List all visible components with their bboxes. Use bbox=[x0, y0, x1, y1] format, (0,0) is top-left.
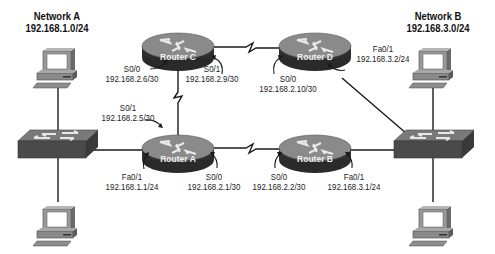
pc-a1-icon bbox=[33, 48, 77, 88]
ip: 192.168.2.5/30 bbox=[100, 113, 156, 123]
router-b-label: Router B bbox=[289, 154, 341, 164]
port: S0/0 bbox=[256, 74, 319, 84]
port: S0/0 bbox=[251, 172, 307, 182]
ip: 192.168.3.1/24 bbox=[326, 182, 382, 192]
pc-b2-icon bbox=[409, 206, 453, 246]
network-b-label: Network B 192.168.3.0/24 bbox=[393, 10, 483, 34]
router-c-label: Router C bbox=[152, 52, 204, 62]
port: S0/0 bbox=[186, 172, 242, 182]
pc-b1-icon bbox=[409, 48, 453, 88]
router-a-label: Router A bbox=[152, 154, 204, 164]
router-c-s01-label: S0/1 192.168.2.9/30 bbox=[184, 64, 240, 84]
port: Fa0/1 bbox=[354, 44, 412, 54]
router-b-s00-label: S0/0 192.168.2.2/30 bbox=[251, 172, 307, 192]
network-a-subnet: 192.168.1.0/24 bbox=[17, 22, 98, 34]
ip: 192.168.1.1/24 bbox=[104, 182, 160, 192]
router-d-label: Router D bbox=[289, 52, 341, 62]
network-b-name: Network B bbox=[393, 10, 483, 22]
switch-a-icon bbox=[18, 130, 98, 158]
router-b-fa01-label: Fa0/1 192.168.3.1/24 bbox=[326, 172, 382, 192]
router-a-s00-label: S0/0 192.168.2.1/30 bbox=[186, 172, 242, 192]
port: S0/1 bbox=[184, 64, 240, 74]
ip: 192.168.2.2/30 bbox=[251, 182, 307, 192]
port: Fa0/1 bbox=[104, 172, 160, 182]
router-a-fa01-label: Fa0/1 192.168.1.1/24 bbox=[104, 172, 160, 192]
ip: 192.168.3.2/24 bbox=[354, 54, 412, 64]
ip: 192.168.2.10/30 bbox=[256, 84, 319, 94]
ip: 192.168.2.1/30 bbox=[186, 182, 242, 192]
network-a-name: Network A bbox=[17, 10, 98, 22]
ip: 192.168.2.6/30 bbox=[104, 74, 160, 84]
diagram-graphics bbox=[0, 0, 495, 254]
port: S0/0 bbox=[104, 64, 160, 74]
pc-a2-icon bbox=[33, 206, 77, 246]
router-d-fa01-label: Fa0/1 192.168.3.2/24 bbox=[354, 44, 412, 64]
port: Fa0/1 bbox=[326, 172, 382, 182]
switch-b-icon bbox=[394, 130, 474, 158]
port: S0/1 bbox=[100, 103, 156, 113]
router-d-s00-label: S0/0 192.168.2.10/30 bbox=[256, 74, 319, 94]
router-a-s01-label: S0/1 192.168.2.5/30 bbox=[100, 103, 156, 123]
router-c-s00-label: S0/0 192.168.2.6/30 bbox=[104, 64, 160, 84]
ip: 192.168.2.9/30 bbox=[184, 74, 240, 84]
network-a-label: Network A 192.168.1.0/24 bbox=[17, 10, 98, 34]
network-diagram: Network A 192.168.1.0/24 Network B 192.1… bbox=[0, 0, 495, 254]
network-b-subnet: 192.168.3.0/24 bbox=[393, 22, 483, 34]
